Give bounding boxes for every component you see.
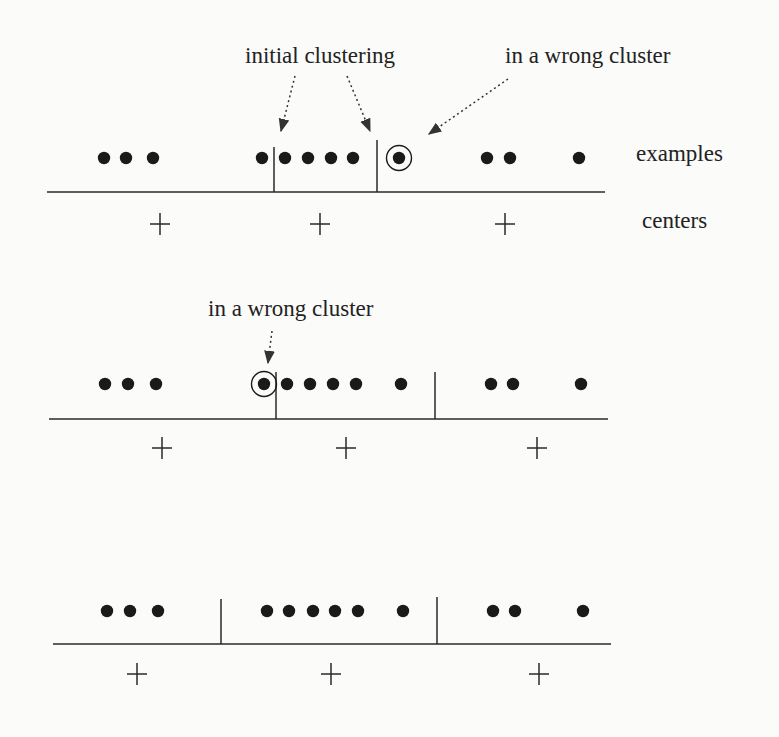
example-point xyxy=(347,152,359,164)
example-point xyxy=(327,378,339,390)
dotted-arrow xyxy=(268,331,272,363)
example-point xyxy=(261,605,273,617)
example-point xyxy=(485,378,497,390)
example-point xyxy=(509,605,521,617)
example-point xyxy=(152,605,164,617)
example-point xyxy=(283,605,295,617)
annotation-wrong-cluster-1: in a wrong cluster xyxy=(505,43,671,68)
center-plus-icon xyxy=(127,663,147,685)
examples-label: examples xyxy=(636,141,723,166)
clustering-diagram: initial clusteringin a wrong clusterin a… xyxy=(0,0,779,737)
example-point xyxy=(101,605,113,617)
example-point xyxy=(98,152,110,164)
annotation-wrong-cluster-2: in a wrong cluster xyxy=(208,296,374,321)
dotted-arrow xyxy=(429,79,508,134)
center-plus-icon xyxy=(336,437,356,459)
example-point xyxy=(325,152,337,164)
example-point xyxy=(99,378,111,390)
center-plus-icon xyxy=(310,213,330,235)
example-point xyxy=(147,152,159,164)
example-point xyxy=(487,605,499,617)
example-point xyxy=(507,378,519,390)
example-point xyxy=(124,605,136,617)
example-point xyxy=(573,152,585,164)
example-point xyxy=(504,152,516,164)
example-point xyxy=(350,378,362,390)
example-point xyxy=(281,378,293,390)
example-point xyxy=(302,152,314,164)
example-point xyxy=(120,152,132,164)
example-point xyxy=(122,378,134,390)
example-point xyxy=(395,378,407,390)
example-point xyxy=(397,605,409,617)
center-plus-icon xyxy=(150,213,170,235)
annotations: initial clusteringin a wrong clusterin a… xyxy=(208,43,671,321)
row-2 xyxy=(49,372,608,460)
dotted-arrow xyxy=(281,76,295,131)
example-point xyxy=(577,605,589,617)
center-plus-icon xyxy=(529,663,549,685)
example-point xyxy=(307,605,319,617)
dotted-arrow xyxy=(347,76,370,131)
center-plus-icon xyxy=(152,437,172,459)
example-point xyxy=(258,378,270,390)
example-point xyxy=(256,152,268,164)
annotation-initial-clustering: initial clustering xyxy=(245,43,396,68)
center-plus-icon xyxy=(321,663,341,685)
row-1-initial xyxy=(47,140,605,235)
example-point xyxy=(393,152,405,164)
example-point xyxy=(329,605,341,617)
row-3 xyxy=(53,597,611,685)
example-point xyxy=(279,152,291,164)
example-point xyxy=(575,378,587,390)
cluster-rows xyxy=(47,140,611,685)
center-plus-icon xyxy=(495,213,515,235)
diagram-svg: initial clusteringin a wrong clusterin a… xyxy=(0,0,779,737)
side-labels: examples centers xyxy=(636,141,723,233)
example-point xyxy=(481,152,493,164)
center-plus-icon xyxy=(527,437,547,459)
example-point xyxy=(352,605,364,617)
centers-label: centers xyxy=(642,208,707,233)
example-point xyxy=(304,378,316,390)
example-point xyxy=(150,378,162,390)
